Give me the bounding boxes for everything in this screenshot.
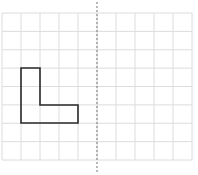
l-shape: [21, 68, 78, 123]
grid-svg: [0, 0, 198, 175]
reflection-grid-diagram: [0, 0, 198, 175]
